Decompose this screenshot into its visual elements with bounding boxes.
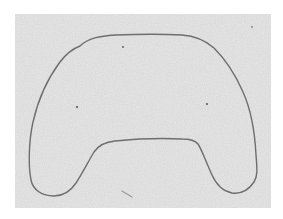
- speck-top-right: [251, 26, 253, 28]
- sketch-canvas: [0, 0, 283, 219]
- paper-texture: [15, 14, 271, 208]
- speck-upper: [122, 46, 124, 48]
- speck-right: [206, 103, 208, 105]
- scanned-sketch: [0, 0, 283, 219]
- speck-left: [76, 106, 78, 108]
